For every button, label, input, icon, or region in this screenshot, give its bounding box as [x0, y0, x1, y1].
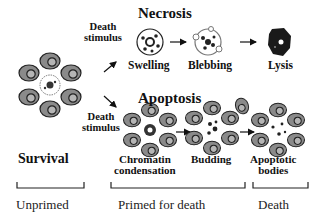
stimulus-line1: Death — [84, 22, 122, 33]
stimulus-line2: stimulus — [84, 33, 122, 44]
survival-cell-cluster — [19, 53, 81, 117]
blebbing-cell — [193, 27, 222, 56]
chromatin-line2: condensation — [114, 165, 176, 176]
swelling-label: Swelling — [128, 60, 170, 72]
lysis-label: Lysis — [268, 60, 293, 72]
arrow-to-apoptosis — [104, 96, 116, 107]
stimulus-line2: stimulus — [82, 123, 120, 134]
necrosis-title: Necrosis — [138, 6, 192, 21]
arrow-to-necrosis — [104, 62, 116, 72]
apoptotic-bodies-cluster — [252, 103, 305, 157]
lysis-cell — [268, 28, 291, 56]
chromatin-condensation-label: Chromatin condensation — [114, 154, 176, 176]
phase-unprimed: Unprimed — [16, 197, 69, 213]
death-bracket — [253, 182, 308, 188]
budding-label: Budding — [191, 154, 231, 165]
apoptotic-line2: bodies — [250, 165, 296, 176]
swelling-cell — [137, 29, 163, 55]
death-stimulus-label-necrosis: Death stimulus — [84, 22, 122, 43]
survival-label: Survival — [18, 152, 69, 166]
stimulus-line1: Death — [82, 112, 120, 123]
apoptotic-bodies-label: Apoptotic bodies — [250, 154, 296, 176]
death-stimulus-label-apoptosis: Death stimulus — [82, 112, 120, 133]
chromatin-condensation-cluster — [124, 103, 177, 157]
phase-primed-for-death: Primed for death — [118, 197, 205, 213]
diagram-graphics — [0, 0, 321, 223]
primed-bracket — [111, 182, 245, 188]
unprimed-bracket — [17, 182, 84, 188]
blebbing-label: Blebbing — [188, 60, 232, 72]
apoptosis-title: Apoptosis — [138, 91, 201, 106]
phase-death: Death — [258, 197, 289, 213]
